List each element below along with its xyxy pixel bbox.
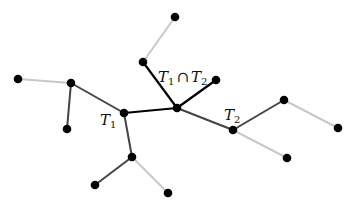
edge-E-F	[71, 83, 124, 113]
node-H	[63, 125, 72, 134]
node-M	[280, 96, 289, 105]
tree-diagram: T1 T1∩T2 T2	[0, 0, 354, 210]
edge-A-B	[143, 17, 175, 62]
node-L	[229, 126, 238, 135]
node-N	[334, 124, 343, 133]
node-I	[128, 153, 137, 162]
edge-L-M	[233, 100, 284, 130]
label-intersection: T1∩T2	[158, 68, 207, 87]
node-O	[283, 154, 292, 163]
node-K	[164, 189, 173, 198]
node-A	[171, 13, 180, 22]
edge-F-G	[18, 79, 71, 83]
label-t2: T2	[224, 106, 240, 125]
edge-M-N	[284, 100, 338, 128]
node-B	[139, 58, 148, 67]
edge-I-J	[95, 157, 132, 185]
edge-I-K	[132, 157, 168, 193]
node-G	[14, 75, 23, 84]
edge-L-O	[233, 130, 287, 158]
node-C	[212, 76, 221, 85]
edge-F-H	[67, 83, 71, 129]
node-F	[67, 79, 76, 88]
edge-D-E	[124, 108, 177, 113]
node-E	[120, 109, 129, 118]
edge-E-I	[124, 113, 132, 157]
label-t1: T1	[100, 111, 116, 130]
node-J	[91, 181, 100, 190]
node-D	[173, 104, 182, 113]
